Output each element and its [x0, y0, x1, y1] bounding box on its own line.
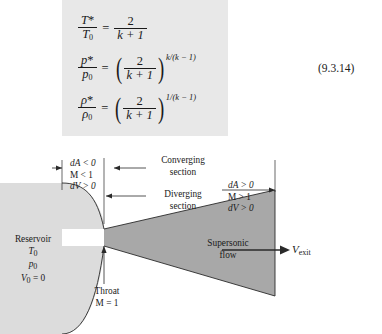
- parenthesized-group-density: ( 2 k + 1 ) 1/(k − 1): [113, 95, 196, 122]
- converging-condition-mach: M < 1: [70, 170, 96, 182]
- numerator-two: 2: [133, 95, 145, 108]
- supersonic-flow-label: Supersonic flow: [196, 238, 260, 261]
- exponent-pressure: k/(k − 1): [166, 52, 196, 62]
- diverging-section-line2: section: [152, 201, 214, 213]
- rhs-fraction-temperature: 2 k + 1: [114, 15, 146, 42]
- converging-conditions: dA < 0 M < 1 dV > 0: [70, 158, 96, 193]
- reservoir-title: Reservoir: [4, 234, 62, 246]
- diverging-conditions: dA > 0 M > 1 dV > 0: [228, 180, 254, 215]
- diverging-condition-dV: dV > 0: [228, 203, 254, 215]
- numerator-two: 2: [124, 15, 136, 28]
- reservoir-pressure: p0: [4, 259, 62, 273]
- equals-sign-2: =: [102, 61, 109, 76]
- equals-sign-1: =: [102, 21, 109, 36]
- exponent-density: 1/(k − 1): [166, 92, 196, 102]
- t-star-symbol: T: [81, 13, 88, 27]
- supersonic-line1: Supersonic: [196, 238, 260, 250]
- exit-velocity-arrowhead: [280, 246, 290, 255]
- converging-condition-dV: dV > 0: [70, 181, 96, 193]
- star-superscript: *: [88, 13, 94, 27]
- throat-label: Throat: [84, 286, 130, 298]
- left-paren: (: [115, 96, 121, 119]
- diverging-condition-dA: dA > 0: [228, 180, 254, 192]
- converging-section-label: Converging section: [152, 155, 214, 178]
- converging-arrowhead-right: [114, 166, 120, 171]
- right-paren: ): [158, 96, 164, 119]
- diverging-section-label: Diverging section: [152, 189, 214, 212]
- star-superscript: *: [87, 93, 93, 107]
- subscript-zero: 0: [88, 73, 92, 82]
- throat-label-group: Throat M = 1: [84, 286, 130, 309]
- denominator-k-plus-1: k + 1: [124, 69, 156, 82]
- diverging-condition-mach: M > 1: [228, 192, 254, 204]
- diverging-arrowhead-left: [106, 194, 112, 199]
- converging-condition-dA: dA < 0: [70, 158, 96, 170]
- denominator-k-plus-1: k + 1: [114, 29, 146, 42]
- exit-velocity-symbol: V: [292, 243, 299, 255]
- numerator-two: 2: [134, 55, 146, 68]
- equation-stack: T* T0 = 2 k + 1 p* p0 = ( 2 k + 1 ) k/(k…: [78, 8, 228, 128]
- left-paren: (: [115, 56, 121, 79]
- diverging-section-line1: Diverging: [152, 189, 214, 201]
- throat-mach-number: M = 1: [84, 298, 130, 310]
- rhs-fraction-density: 2 k + 1: [123, 95, 155, 122]
- parenthesized-group-pressure: ( 2 k + 1 ) k/(k − 1): [114, 55, 196, 82]
- equation-pressure-ratio: p* p0 = ( 2 k + 1 ) k/(k − 1): [78, 48, 228, 88]
- converging-section-line2: section: [152, 167, 214, 179]
- reservoir-temperature: T0: [4, 246, 62, 260]
- equation-density-ratio: ρ* ρ0 = ( 2 k + 1 ) 1/(k − 1): [78, 88, 228, 128]
- right-paren: ): [158, 56, 164, 79]
- reservoir-label-group: Reservoir T0 p0 V0 = 0: [4, 234, 62, 286]
- converging-arrowhead-left: [56, 166, 62, 171]
- reservoir-T-subscript: 0: [34, 249, 38, 258]
- lhs-fraction-density: ρ* ρ0: [78, 94, 96, 122]
- reservoir-V-subscript: 0: [27, 276, 31, 285]
- star-superscript: *: [87, 53, 93, 67]
- lhs-fraction-pressure: p* p0: [78, 54, 97, 82]
- supersonic-line2: flow: [196, 250, 260, 262]
- exit-velocity-label: Vexit: [292, 244, 311, 259]
- nozzle-figure: dA < 0 M < 1 dV > 0 Converging section D…: [0, 150, 382, 334]
- denominator-k-plus-1: k + 1: [123, 109, 155, 122]
- rhs-fraction-pressure: 2 k + 1: [124, 55, 156, 82]
- reservoir-p-subscript: 0: [33, 262, 37, 271]
- equation-number: (9.3.14): [318, 62, 354, 74]
- reservoir-V-value: = 0: [33, 273, 45, 283]
- subscript-zero: 0: [88, 113, 92, 122]
- subscript-zero: 0: [89, 33, 93, 42]
- equals-sign-3: =: [101, 101, 108, 116]
- lhs-fraction-temperature: T* T0: [78, 14, 97, 42]
- equation-temperature-ratio: T* T0 = 2 k + 1: [78, 8, 228, 48]
- reservoir-velocity: V0 = 0: [4, 273, 62, 287]
- exit-velocity-subscript: exit: [299, 248, 311, 257]
- converging-section-line1: Converging: [152, 155, 214, 167]
